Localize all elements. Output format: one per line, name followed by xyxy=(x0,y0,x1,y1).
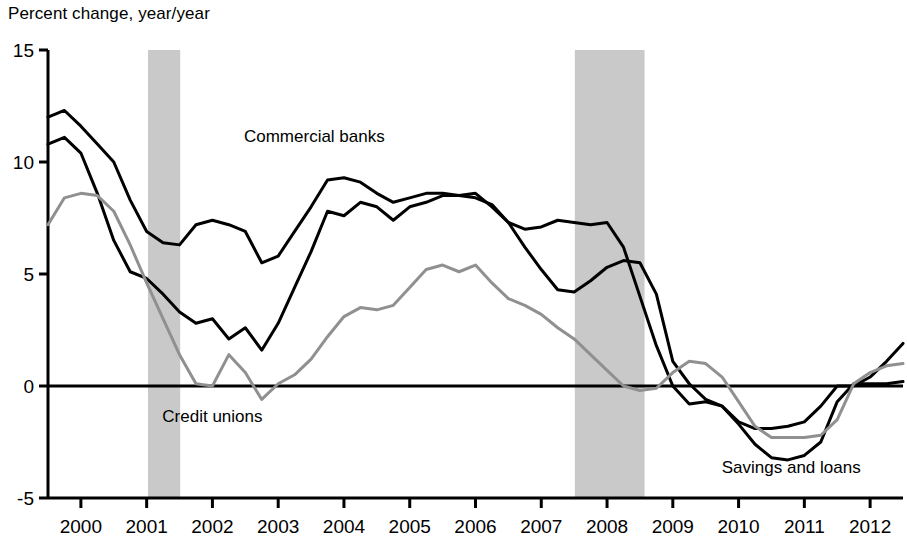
y-tick-label: -5 xyxy=(17,488,34,509)
x-tick-label: 2007 xyxy=(520,516,562,537)
recession-2008 xyxy=(575,50,645,498)
y-tick-label: 10 xyxy=(13,152,34,173)
x-tick-label: 2001 xyxy=(126,516,168,537)
y-tick-label: 5 xyxy=(23,264,34,285)
series-label-savings-and-loans: Savings and loans xyxy=(722,458,861,477)
x-tick-label: 2000 xyxy=(60,516,102,537)
recession-bands xyxy=(148,50,645,498)
series-annotations: Commercial banksCredit unionsSavings and… xyxy=(162,127,860,478)
x-tick-label: 2003 xyxy=(257,516,299,537)
chart-root: Percent change, year/year -5051015200020… xyxy=(0,0,907,549)
x-tick-label: 2004 xyxy=(323,516,366,537)
x-tick-label: 2006 xyxy=(454,516,496,537)
x-tick-label: 2002 xyxy=(191,516,233,537)
x-tick-label: 2011 xyxy=(784,516,825,537)
y-tick-label: 0 xyxy=(23,376,34,397)
x-tick-label: 2010 xyxy=(717,516,759,537)
series-label-commercial-banks: Commercial banks xyxy=(244,127,385,146)
recession-2001 xyxy=(148,50,180,498)
x-tick-label: 2009 xyxy=(652,516,694,537)
x-tick-label: 2012 xyxy=(849,516,891,537)
series-label-credit-unions: Credit unions xyxy=(162,407,262,426)
line-chart-plot: -505101520002001200220032004200520062007… xyxy=(0,0,907,549)
x-tick-label: 2008 xyxy=(586,516,628,537)
y-tick-label: 15 xyxy=(13,40,34,61)
x-tick-label: 2005 xyxy=(389,516,431,537)
